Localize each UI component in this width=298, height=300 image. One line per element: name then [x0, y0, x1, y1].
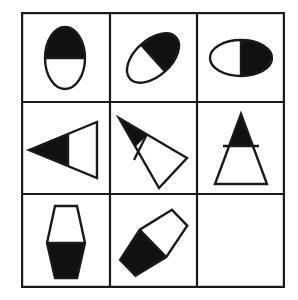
triangle-up-apex-filled-icon — [197, 104, 285, 196]
matrix-cell-row3-col2[interactable] — [109, 196, 197, 288]
matrix-cell-row2-col3[interactable] — [197, 104, 285, 196]
ellipse-horizontal-right-filled-icon — [197, 12, 285, 104]
matrix-cell-row3-col1[interactable] — [21, 196, 109, 288]
matrix-cell-row2-col1[interactable] — [21, 104, 109, 196]
triangle-tilted-apex-filled-icon — [109, 104, 197, 196]
matrix-cell-row3-col3-blank[interactable] — [197, 196, 285, 288]
ellipse-tilted-half-filled-icon — [109, 12, 197, 104]
triangle-left-apex-filled-icon — [21, 104, 109, 196]
hexagon-upright-bottom-filled-icon — [21, 196, 109, 288]
matrix-cell-row1-col2[interactable] — [109, 12, 197, 104]
matrix-grid — [21, 12, 285, 288]
ellipse-upright-top-filled-icon — [21, 12, 109, 104]
blank-answer-cell — [197, 196, 285, 288]
matrix-cell-row1-col1[interactable] — [21, 12, 109, 104]
matrix-cell-row1-col3[interactable] — [197, 12, 285, 104]
hexagon-tilted-half-filled-icon — [109, 196, 197, 288]
matrix-frame — [21, 12, 285, 288]
matrix-cell-row2-col2[interactable] — [109, 104, 197, 196]
matrix-puzzle-root — [0, 0, 298, 300]
